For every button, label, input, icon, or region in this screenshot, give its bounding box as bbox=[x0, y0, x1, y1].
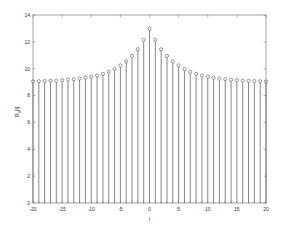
x-tick-label: -10 bbox=[88, 206, 95, 212]
svg-text:Rll[l]: Rll[l] bbox=[14, 106, 22, 117]
x-tick-label: 20 bbox=[263, 206, 269, 212]
x-tick-label: -20 bbox=[29, 206, 36, 212]
stem-chart: 02468101214 -20-15-10-505101520 l Rll[l] bbox=[0, 0, 282, 225]
x-axis-label: l bbox=[149, 216, 150, 222]
y-tick-label: 8 bbox=[27, 92, 30, 98]
x-tick-label: 0 bbox=[148, 206, 151, 212]
x-tick-label: 10 bbox=[205, 206, 211, 212]
x-tick-label: -5 bbox=[118, 206, 123, 212]
y-tick-label: 14 bbox=[24, 12, 30, 18]
y-tick-label: 0 bbox=[27, 200, 30, 206]
y-tick-label: 12 bbox=[24, 39, 30, 45]
y-axis-label: Rll[l] bbox=[14, 106, 22, 117]
y-tick-label: 6 bbox=[27, 119, 30, 125]
x-tick-label: 15 bbox=[234, 206, 240, 212]
x-tick-label: -15 bbox=[59, 206, 66, 212]
y-tick-label: 4 bbox=[27, 146, 30, 152]
y-tick-label: 2 bbox=[27, 173, 30, 179]
y-tick-label: 10 bbox=[24, 66, 30, 72]
x-tick-label: 5 bbox=[177, 206, 180, 212]
